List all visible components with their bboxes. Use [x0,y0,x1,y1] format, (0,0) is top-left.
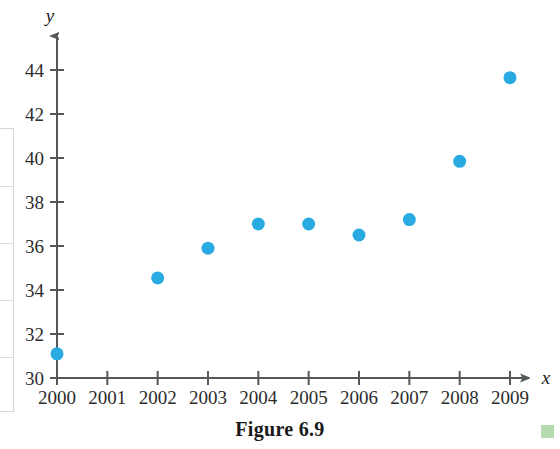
scatter-plot: 3032343638404244 20002001200220032004200… [0,0,560,449]
data-point [453,155,466,168]
x-tick-label: 2007 [390,387,428,408]
x-tick-label: 2001 [88,387,126,408]
data-point [302,218,315,231]
y-tick-label: 30 [25,368,44,389]
y-tick-label: 34 [25,280,45,301]
x-tick-label: 2000 [38,387,76,408]
figure-container: 3032343638404244 20002001200220032004200… [0,0,560,449]
data-point [252,218,265,231]
y-tick-group: 3032343638404244 [25,60,64,389]
green-marker-chip [541,425,554,438]
data-point [51,347,64,360]
x-tick-label: 2008 [441,387,479,408]
y-tick-label: 44 [25,60,45,81]
y-axis-label: y [44,5,55,26]
x-tick-label: 2004 [239,387,278,408]
y-tick-label: 40 [25,148,44,169]
x-tick-group: 2000200120022003200420052006200720082009 [38,371,529,408]
data-point [403,213,416,226]
data-point [353,229,366,242]
x-tick-label: 2003 [189,387,227,408]
y-tick-label: 36 [25,236,44,257]
x-axis-label: x [541,367,551,388]
x-tick-label: 2009 [491,387,529,408]
figure-caption: Figure 6.9 [0,418,560,441]
data-point-group [51,71,517,360]
y-tick-label: 38 [25,192,44,213]
data-point [202,242,215,255]
y-tick-label: 32 [25,324,44,345]
y-tick-label: 42 [25,104,44,125]
data-point [504,71,517,84]
x-tick-label: 2005 [290,387,328,408]
data-point [151,271,164,284]
x-tick-label: 2002 [139,387,177,408]
x-tick-label: 2006 [340,387,378,408]
